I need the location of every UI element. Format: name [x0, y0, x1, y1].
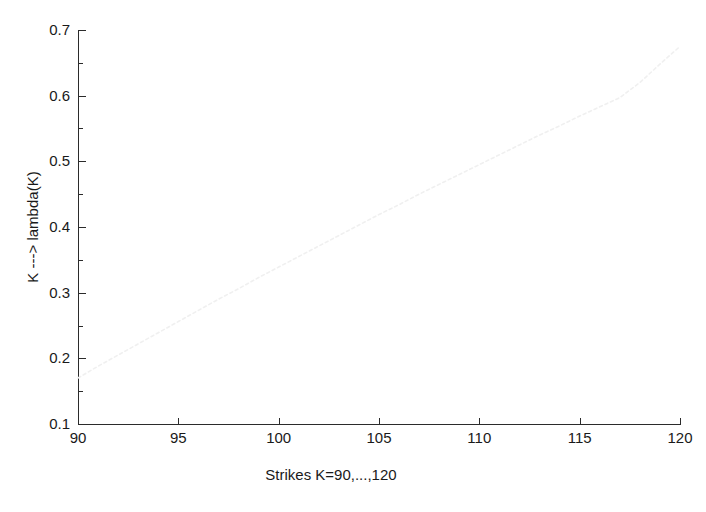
x-tick-label-100: 100 — [257, 430, 301, 446]
y-axis-label: K ---> lambda(K) — [18, 30, 48, 424]
plot-area — [78, 30, 680, 424]
x-axis-label: Strikes K=90,...,120 — [0, 466, 706, 483]
x-tick-label-110: 110 — [457, 430, 501, 446]
x-tick-label-95: 95 — [156, 430, 200, 446]
x-tick-120 — [680, 418, 681, 424]
x-axis-line — [78, 424, 681, 425]
data-series-layer — [78, 30, 680, 424]
x-tick-label-115: 115 — [558, 430, 602, 446]
x-tick-label-120: 120 — [658, 430, 702, 446]
x-tick-label-105: 105 — [357, 430, 401, 446]
figure-canvas: 0.10.20.30.40.50.60.7 909510010511011512… — [0, 0, 706, 512]
y-tick-0.1 — [79, 424, 86, 425]
x-axis-label-text: Strikes K=90,...,120 — [265, 466, 396, 483]
series-lambda-k-line — [78, 46, 680, 378]
x-tick-label-90: 90 — [56, 430, 100, 446]
